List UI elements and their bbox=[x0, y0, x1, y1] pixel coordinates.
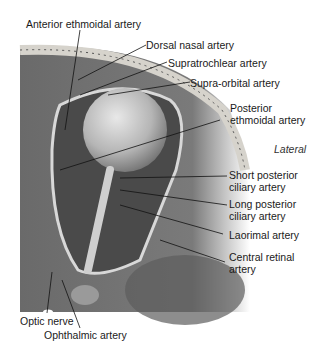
orbit-artery-diagram: Anterior ethmoidal artery Dorsal nasal a… bbox=[0, 0, 326, 354]
label-central-retinal-artery-1: Central retinal bbox=[229, 251, 294, 263]
label-posterior-ethmoidal-artery-2: ethmoidal artery bbox=[230, 114, 305, 126]
label-short-posterior-ciliary-artery-2: ciliary artery bbox=[229, 181, 286, 193]
label-ophthalmic-artery: Ophthalmic artery bbox=[44, 329, 127, 341]
label-dorsal-nasal-artery: Dorsal nasal artery bbox=[146, 39, 234, 51]
label-anterior-ethmoidal-artery: Anterior ethmoidal artery bbox=[26, 18, 141, 30]
label-lacrimal-artery: Laorimal artery bbox=[229, 229, 299, 241]
label-optic-nerve: Optic nerve bbox=[20, 315, 74, 327]
label-supra-orbital-artery: Supra-orbital artery bbox=[190, 77, 280, 89]
label-supratrochlear-artery: Supratrochlear artery bbox=[168, 57, 267, 69]
label-short-posterior-ciliary-artery-1: Short posterior bbox=[229, 169, 298, 181]
label-lateral-orientation: Lateral bbox=[274, 143, 306, 155]
label-posterior-ethmoidal-artery-1: Posterior bbox=[230, 102, 272, 114]
label-long-posterior-ciliary-artery-2: ciliary artery bbox=[229, 210, 286, 222]
label-central-retinal-artery-2: artery bbox=[229, 263, 256, 275]
label-long-posterior-ciliary-artery-1: Long posterior bbox=[229, 198, 296, 210]
